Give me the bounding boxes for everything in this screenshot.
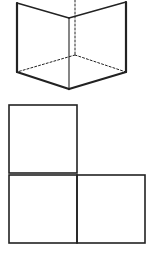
l-shape-square-1 bbox=[9, 105, 77, 173]
l-shape-square-3 bbox=[77, 175, 145, 243]
cube-figure bbox=[17, 0, 126, 89]
cube-edge-bottom-right bbox=[69, 72, 126, 89]
figure-canvas bbox=[0, 0, 149, 259]
hidden-edge-left bbox=[17, 55, 75, 72]
hidden-edge-right bbox=[75, 55, 126, 72]
l-shape-square-2 bbox=[9, 175, 77, 243]
l-shape-figure bbox=[9, 105, 145, 243]
cube-edge-bottom-left bbox=[17, 72, 69, 89]
cube-edge-top-right bbox=[69, 2, 126, 18]
cube-edge-top-left bbox=[17, 3, 69, 18]
